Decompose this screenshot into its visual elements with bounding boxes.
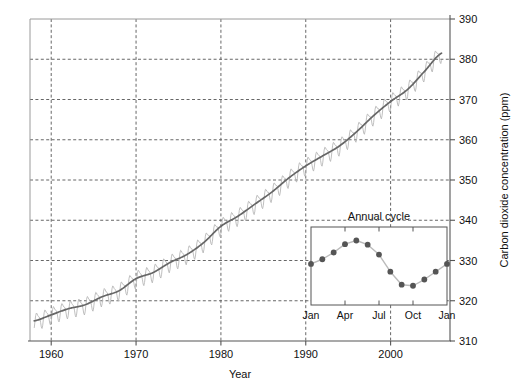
x-tick-label: 2000	[378, 348, 402, 360]
inset-x-tick-label: Jan	[303, 309, 320, 321]
inset-data-point	[421, 277, 427, 283]
inset-annual-cycle: Annual cycleJanAprJulOctJan	[303, 210, 456, 321]
y-tick-label: 370	[459, 94, 477, 106]
inset-x-tick-label: Jul	[372, 309, 385, 321]
y-tick-label: 350	[459, 174, 477, 186]
y-tick-label: 380	[459, 53, 477, 65]
x-axis: 19601970198019902000Year	[28, 341, 451, 380]
inset-data-point	[319, 256, 325, 262]
inset-data-point	[410, 283, 416, 289]
inset-x-tick-label: Oct	[405, 309, 421, 321]
inset-x-tick-label: Jan	[439, 309, 456, 321]
y-tick-label: 390	[459, 13, 477, 25]
inset-data-point	[444, 261, 450, 267]
inset-x-tick-label: Apr	[337, 309, 354, 321]
y-tick-label: 310	[459, 335, 477, 347]
y-tick-label: 330	[459, 255, 477, 267]
inset-data-point	[342, 241, 348, 247]
chart-figure: 19601970198019902000Year3103203303403503…	[0, 0, 521, 386]
inset-data-point	[376, 252, 382, 258]
inset-data-point	[365, 242, 371, 248]
x-tick-label: 1970	[124, 348, 148, 360]
y-axis: 310320330340350360370380390Carbon dioxid…	[450, 13, 510, 347]
co2-concentration-chart: 19601970198019902000Year3103203303403503…	[0, 0, 521, 386]
x-tick-label: 1990	[294, 348, 318, 360]
y-tick-label: 340	[459, 214, 477, 226]
inset-title: Annual cycle	[348, 210, 410, 222]
inset-data-point	[331, 250, 337, 256]
y-axis-title: Carbon dioxide concentration (ppm)	[498, 93, 510, 268]
inset-data-point	[433, 269, 439, 275]
inset-data-point	[399, 282, 405, 288]
y-tick-label: 360	[459, 134, 477, 146]
inset-data-point	[387, 269, 393, 275]
inset-data-point	[308, 261, 314, 267]
y-tick-label: 320	[459, 295, 477, 307]
x-tick-label: 1960	[39, 348, 63, 360]
x-tick-label: 1980	[209, 348, 233, 360]
x-axis-title: Year	[229, 368, 252, 380]
inset-data-point	[353, 238, 359, 244]
